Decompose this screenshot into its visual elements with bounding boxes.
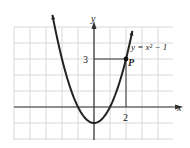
y-tick-label: 3 xyxy=(83,54,88,65)
x-axis-label: x xyxy=(176,102,182,113)
parabola-graph: x y 2 3 y = x² − 1 P xyxy=(0,0,190,148)
y-axis-label: y xyxy=(90,13,96,24)
point-p-label: P xyxy=(128,57,135,68)
x-tick-label: 2 xyxy=(123,112,128,123)
equation-label: y = x² − 1 xyxy=(130,42,167,52)
